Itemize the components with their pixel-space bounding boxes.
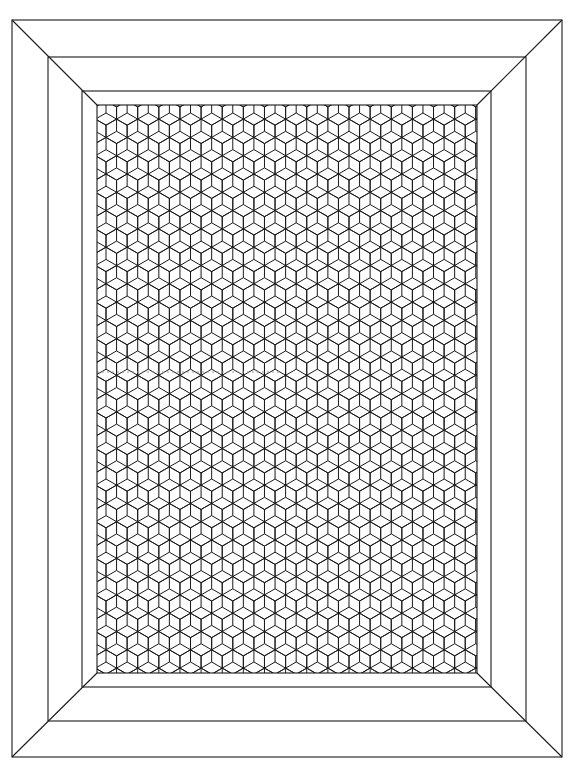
quilt-drawing — [0, 0, 575, 766]
